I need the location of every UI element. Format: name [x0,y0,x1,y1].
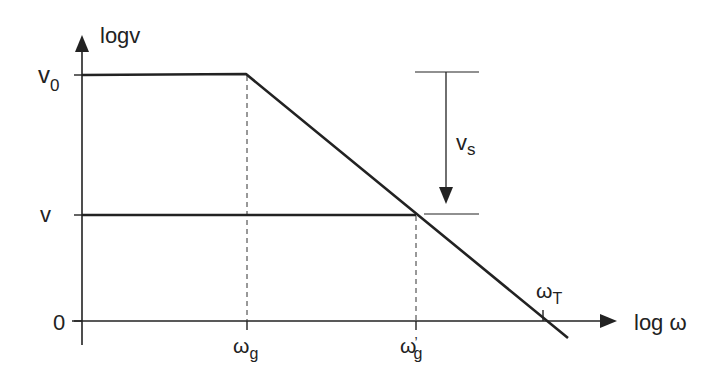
x-axis [72,314,617,328]
x-axis-label: log ω [634,310,687,335]
bode-diagram: logv log ω v0 v 0 ωg ω’g ωT vs [0,0,722,381]
y-axis-arrow-icon [75,35,89,52]
x-axis-arrow-icon [600,314,617,328]
vs-indicator [415,72,479,204]
label-v: v [40,202,51,227]
y-axis-label: logv [100,23,140,48]
label-wg-prime: ω’g [400,334,422,362]
label-wg: ωg [233,334,258,362]
label-vs: vs [456,130,476,159]
down-arrow-icon [439,187,453,204]
response-curve-open-loop [82,74,568,338]
label-zero: 0 [53,310,65,335]
y-axis [75,35,89,345]
label-v0: v0 [38,61,59,95]
label-wT: ωT [536,279,562,307]
